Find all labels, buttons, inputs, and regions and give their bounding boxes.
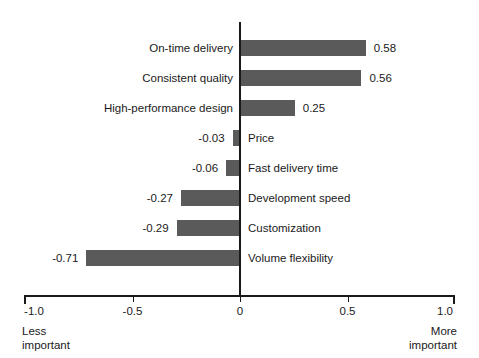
- category-label: Price: [248, 129, 274, 147]
- value-label: -0.03: [198, 129, 224, 147]
- plot-area: On-time delivery0.58Consistent quality0.…: [0, 0, 479, 295]
- axis-tick-label: 0: [237, 304, 243, 318]
- axis-tick-label: 1.0: [437, 304, 453, 318]
- category-label: Fast delivery time: [248, 159, 338, 177]
- value-label: 0.56: [369, 69, 391, 87]
- less-important-line1: Less: [22, 325, 70, 339]
- bar: [241, 70, 361, 86]
- value-label: -0.27: [147, 189, 173, 207]
- category-label: Volume flexibility: [248, 249, 333, 267]
- value-label: -0.71: [52, 249, 78, 267]
- axis-tick: [24, 295, 26, 304]
- less-important-line2: important: [22, 339, 70, 353]
- more-important-line2: important: [409, 339, 457, 353]
- axis-tick: [240, 295, 241, 302]
- value-label: -0.29: [142, 219, 168, 237]
- more-important-line1: More: [409, 325, 457, 339]
- bar: [241, 100, 295, 116]
- axis-tick: [133, 295, 134, 302]
- bar: [233, 130, 239, 146]
- category-label: On-time delivery: [149, 39, 233, 57]
- axis-tick-label: 0.5: [340, 304, 356, 318]
- less-important-note: Less important: [22, 325, 70, 352]
- category-label: Development speed: [248, 189, 350, 207]
- bar: [241, 40, 366, 56]
- value-label: 0.25: [303, 99, 325, 117]
- bar-row: Volume flexibility-0.71: [0, 243, 479, 273]
- bar-row: Consistent quality0.56: [0, 63, 479, 93]
- bar: [86, 250, 239, 266]
- value-label: -0.06: [192, 159, 218, 177]
- bar-row: Price-0.03: [0, 123, 479, 153]
- bar: [181, 190, 239, 206]
- bar: [177, 220, 239, 236]
- axis-tick-label: -0.5: [123, 304, 143, 318]
- category-label: High-performance design: [104, 99, 233, 117]
- axis-tick: [453, 295, 455, 304]
- category-label: Consistent quality: [142, 69, 233, 87]
- bar-row: Fast delivery time-0.06: [0, 153, 479, 183]
- bar-row: Customization-0.29: [0, 213, 479, 243]
- axis-tick: [348, 295, 349, 302]
- x-axis: -1.0-0.500.51.0 Less important More impo…: [0, 295, 479, 358]
- bar-row: Development speed-0.27: [0, 183, 479, 213]
- value-label: 0.58: [374, 39, 396, 57]
- bar-row: High-performance design0.25: [0, 93, 479, 123]
- bar-chart: On-time delivery0.58Consistent quality0.…: [0, 0, 479, 358]
- bar-row: On-time delivery0.58: [0, 33, 479, 63]
- axis-tick-label: -1.0: [24, 304, 44, 318]
- more-important-note: More important: [409, 325, 457, 352]
- bar: [226, 160, 239, 176]
- category-label: Customization: [248, 219, 321, 237]
